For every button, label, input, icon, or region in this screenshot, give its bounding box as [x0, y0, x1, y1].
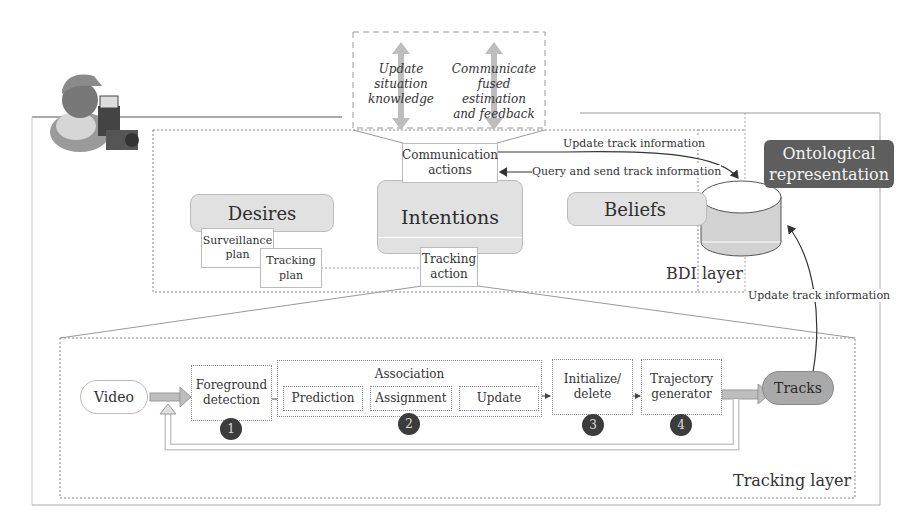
trajectory-generator-box[interactable]: Trajectory generator [641, 359, 722, 415]
tracking-plan-label: Tracking plan [261, 253, 321, 283]
tracking-action-box[interactable]: Tracking action [420, 247, 478, 287]
intentions-highlight-line [378, 237, 522, 238]
step-number: 4 [677, 418, 685, 432]
ontological-representation-box[interactable]: Ontological representation [764, 140, 894, 188]
intentions-box[interactable]: Intentions [377, 180, 523, 254]
association-label: Association [375, 367, 445, 382]
tracking-layer-label: Tracking layer [733, 471, 851, 490]
step-number: 2 [405, 417, 413, 431]
prediction-label: Prediction [292, 391, 355, 406]
initialize-delete-box[interactable]: Initialize/ delete [552, 359, 633, 415]
bdi-layer-label: BDI layer [666, 264, 743, 283]
prediction-box[interactable]: Prediction [283, 386, 363, 411]
text-line: fused estimation [444, 77, 544, 107]
tracking-plan-box[interactable]: Tracking plan [260, 248, 322, 288]
intentions-label: Intentions [401, 206, 499, 228]
text-line: Foreground [196, 378, 268, 393]
database-icon [701, 181, 781, 256]
text-line: representation [764, 164, 894, 185]
communicate-fused-estimation-text: Communicate fused estimation and feedbac… [444, 62, 544, 122]
video-label: Video [94, 389, 134, 405]
text-line: Ontological [764, 143, 894, 164]
tracks-node[interactable]: Tracks [762, 371, 834, 405]
assignment-label: Assignment [375, 391, 446, 406]
text-line: Tracking [422, 252, 476, 267]
text-line: knowledge [365, 92, 437, 107]
step-number: 3 [589, 418, 597, 432]
update-track-info-label: Update track information [563, 137, 705, 150]
step-number: 1 [227, 422, 235, 436]
text-line: Update [365, 62, 437, 77]
photographer-avatar-icon [44, 64, 144, 154]
text-line: Communicate [444, 62, 544, 77]
text-line: Trajectory [650, 372, 713, 387]
update-box[interactable]: Update [459, 386, 539, 411]
step-2-badge: 2 [398, 413, 420, 435]
video-node[interactable]: Video [80, 380, 148, 414]
text-line: detection [196, 393, 268, 408]
desires-label: Desires [228, 203, 297, 224]
update-label: Update [477, 391, 522, 406]
text-line: Surveillance [203, 234, 272, 248]
step-1-badge: 1 [220, 418, 242, 440]
text-line: and feedback [444, 107, 544, 122]
step-3-badge: 3 [582, 414, 604, 436]
assignment-box[interactable]: Assignment [370, 386, 452, 411]
text-line: actions [402, 163, 498, 178]
text-line: generator [650, 387, 713, 402]
tracks-label: Tracks [774, 380, 822, 396]
foreground-detection-box[interactable]: Foreground detection [191, 365, 272, 421]
desires-box[interactable]: Desires [190, 194, 334, 232]
beliefs-box[interactable]: Beliefs [567, 192, 707, 226]
update-track-info-side-label: Update track information [748, 289, 890, 302]
beliefs-label: Beliefs [604, 199, 666, 220]
text-line: Communication [402, 148, 498, 163]
communication-actions-box[interactable]: Communication actions [402, 143, 498, 183]
step-4-badge: 4 [670, 414, 692, 436]
text-line: action [422, 267, 476, 282]
text-line: Initialize/ [564, 372, 621, 387]
query-send-track-info-label: Query and send track information [532, 165, 721, 178]
update-situation-knowledge-text: Update situation knowledge [365, 62, 437, 107]
text-line: delete [564, 387, 621, 402]
text-line: situation [365, 77, 437, 92]
